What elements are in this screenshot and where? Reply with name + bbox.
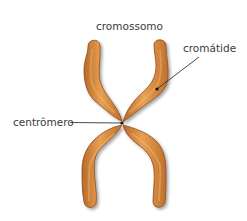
chromatid-arm-upper-left (84, 40, 122, 121)
centromere-dot (120, 121, 123, 124)
chromosome-label: cromossomo (96, 21, 163, 32)
chromatid-dot (155, 87, 158, 90)
chromatid-label: cromátide (183, 43, 236, 54)
chromosome-diagram: cromossomo cromátide centrômero (0, 0, 247, 221)
centromere-leader-line (70, 123, 122, 124)
centromere-label: centrômero (13, 117, 74, 128)
chromosome-illustration (0, 0, 247, 221)
chromatid-arm-upper-right (123, 40, 168, 122)
